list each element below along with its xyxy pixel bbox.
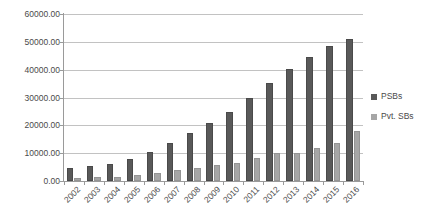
- x-axis-tick-mark: [363, 181, 364, 185]
- y-axis-tick-label: 0.00: [0, 177, 60, 186]
- y-axis-tick-label: 50000.00: [0, 38, 60, 47]
- x-axis-tick-mark: [204, 181, 205, 185]
- legend-item[interactable]: PSBs: [371, 92, 414, 101]
- bar-group: [223, 14, 243, 181]
- bar-psbs: [306, 57, 313, 181]
- bar-psbs: [127, 159, 134, 181]
- bar-pvt-sbs: [234, 163, 241, 181]
- bar-pvt-sbs: [114, 177, 121, 181]
- x-axis-tick-mark: [243, 181, 244, 185]
- bar-pvt-sbs: [214, 165, 221, 181]
- bar-psbs: [87, 166, 94, 181]
- x-axis-tick-mark: [64, 181, 65, 185]
- x-axis-tick-mark: [144, 181, 145, 185]
- x-axis-line: [63, 181, 364, 182]
- plot-area: [64, 14, 363, 181]
- y-axis-tick-label: 40000.00: [0, 66, 60, 75]
- legend-item[interactable]: Pvt. SBs: [371, 112, 414, 121]
- bar-psbs: [246, 98, 253, 182]
- x-axis-tick-mark: [283, 181, 284, 185]
- y-axis-tick-label: 60000.00: [0, 10, 60, 19]
- legend-label: PSBs: [381, 92, 402, 101]
- bar-pvt-sbs: [154, 173, 161, 181]
- bar-psbs: [147, 152, 154, 182]
- x-axis-tick-mark: [84, 181, 85, 185]
- bar-psbs: [226, 112, 233, 181]
- bar-group: [104, 14, 124, 181]
- x-axis-tick-mark: [104, 181, 105, 185]
- bar-group: [84, 14, 104, 181]
- y-axis-tick-label: 10000.00: [0, 149, 60, 158]
- bar-pvt-sbs: [314, 148, 321, 181]
- y-axis-tick-label: 20000.00: [0, 121, 60, 130]
- bar-group: [164, 14, 184, 181]
- bar-psbs: [286, 69, 293, 181]
- bar-group: [204, 14, 224, 181]
- bar-psbs: [107, 164, 114, 181]
- chart-legend: PSBsPvt. SBs: [371, 92, 414, 132]
- bar-psbs: [187, 133, 194, 181]
- x-axis-tick-mark: [164, 181, 165, 185]
- bar-pvt-sbs: [74, 178, 81, 181]
- bar-pvt-sbs: [174, 170, 181, 181]
- bar-pvt-sbs: [294, 153, 301, 181]
- x-axis-tick-mark: [184, 181, 185, 185]
- bar-pvt-sbs: [94, 177, 101, 181]
- bar-psbs: [266, 83, 273, 181]
- bar-group: [243, 14, 263, 181]
- bar-pvt-sbs: [254, 158, 261, 181]
- x-axis-tick-mark: [223, 181, 224, 185]
- legend-swatch-icon: [371, 94, 377, 100]
- legend-swatch-icon: [371, 114, 377, 120]
- x-axis-tick-mark: [303, 181, 304, 185]
- x-axis-tick-mark: [343, 181, 344, 185]
- bar-pvt-sbs: [354, 131, 361, 181]
- bar-psbs: [206, 123, 213, 181]
- bar-group: [283, 14, 303, 181]
- bar-group: [323, 14, 343, 181]
- bar-group: [124, 14, 144, 181]
- bar-pvt-sbs: [274, 153, 281, 181]
- bar-group: [343, 14, 363, 181]
- x-axis-tick-mark: [323, 181, 324, 185]
- bar-chart: 60000.0050000.0040000.0030000.0020000.00…: [0, 0, 427, 222]
- bar-pvt-sbs: [334, 143, 341, 181]
- bar-psbs: [67, 168, 74, 181]
- bar-psbs: [346, 39, 353, 181]
- bar-pvt-sbs: [194, 168, 201, 181]
- bar-psbs: [326, 46, 333, 181]
- bar-psbs: [167, 143, 174, 181]
- x-axis-tick-mark: [263, 181, 264, 185]
- bar-group: [144, 14, 164, 181]
- bar-group: [263, 14, 283, 181]
- bar-pvt-sbs: [134, 175, 141, 181]
- bar-group: [303, 14, 323, 181]
- bar-group: [64, 14, 84, 181]
- bar-group: [184, 14, 204, 181]
- legend-label: Pvt. SBs: [381, 112, 414, 121]
- y-axis-tick-label: 30000.00: [0, 94, 60, 103]
- x-axis-tick-mark: [124, 181, 125, 185]
